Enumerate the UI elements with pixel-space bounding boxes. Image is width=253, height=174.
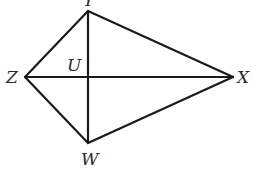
kite-diagram: Y Z X W U	[0, 0, 253, 174]
side-xw	[88, 77, 233, 143]
vertex-label-w: W	[81, 149, 100, 169]
side-wz	[25, 77, 88, 143]
vertex-label-z: Z	[5, 67, 19, 87]
vertex-label-x: X	[235, 67, 250, 87]
side-yx	[88, 11, 233, 77]
vertex-label-y: Y	[83, 0, 96, 10]
intersection-label-u: U	[67, 55, 82, 75]
